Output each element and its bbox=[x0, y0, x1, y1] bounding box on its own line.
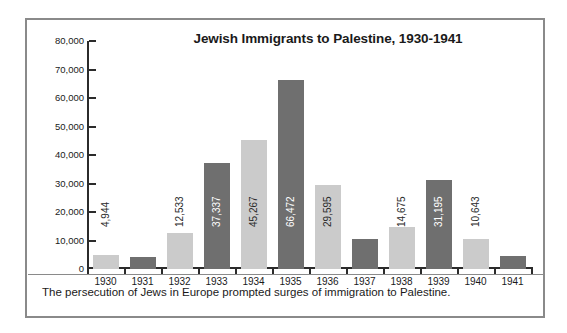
bar-value-label-1939: 31,195 bbox=[434, 196, 444, 227]
bar-value-label-1930: 4,944 bbox=[101, 202, 111, 227]
chart-area: Jewish Immigrants to Palestine, 1930-194… bbox=[28, 21, 544, 276]
bar-value-label-1941: 4,592 bbox=[508, 202, 518, 227]
bar-1935[interactable] bbox=[278, 80, 304, 269]
y-axis-tick bbox=[89, 183, 96, 185]
bar-value-label-1936: 29,595 bbox=[323, 196, 333, 227]
bar-value-label-1934: 45,267 bbox=[249, 196, 259, 227]
bar-value-label-1938: 14,675 bbox=[397, 196, 407, 227]
y-axis-tick-label: 50,000 bbox=[36, 122, 84, 132]
bar-1931[interactable] bbox=[130, 257, 156, 269]
plot-area: 4,9444,07512,53337,33745,26766,47229,595… bbox=[87, 41, 531, 269]
y-axis-tick-label: 10,000 bbox=[36, 236, 84, 246]
bar-value-label-1937: 10,629 bbox=[360, 196, 370, 227]
y-axis-tick bbox=[89, 69, 96, 71]
y-axis-tick-label: 80,000 bbox=[36, 36, 84, 46]
figure-caption: The persecution of Jews in Europe prompt… bbox=[42, 286, 450, 298]
y-axis-tick-label: 70,000 bbox=[36, 65, 84, 75]
y-axis-tick bbox=[89, 154, 96, 156]
bar-1932[interactable] bbox=[167, 233, 193, 269]
y-axis-tick-label: 30,000 bbox=[36, 179, 84, 189]
figure-frame: Jewish Immigrants to Palestine, 1930-194… bbox=[25, 18, 545, 318]
y-axis-tick bbox=[89, 40, 96, 42]
bar-1940[interactable] bbox=[463, 239, 489, 269]
bar-1941[interactable] bbox=[500, 256, 526, 269]
y-axis-tick-label: 40,000 bbox=[36, 150, 84, 160]
y-axis-tick bbox=[89, 211, 96, 213]
bar-1930[interactable] bbox=[93, 255, 119, 269]
y-axis-tick bbox=[89, 240, 96, 242]
bar-value-label-1935: 66,472 bbox=[286, 196, 296, 227]
bar-value-label-1932: 12,533 bbox=[175, 196, 185, 227]
y-axis-tick-label: 20,000 bbox=[36, 207, 84, 217]
y-axis-tick-label: 0 bbox=[36, 264, 84, 274]
bar-1938[interactable] bbox=[389, 227, 415, 269]
y-axis-tick bbox=[89, 97, 96, 99]
y-axis-tick bbox=[89, 126, 96, 128]
y-axis-labels: 010,00020,00030,00040,00050,00060,00070,… bbox=[32, 21, 84, 276]
bar-value-label-1931: 4,075 bbox=[138, 202, 148, 227]
caption-band: The persecution of Jews in Europe prompt… bbox=[28, 274, 544, 315]
bar-value-label-1940: 10,643 bbox=[471, 196, 481, 227]
bar-1937[interactable] bbox=[352, 239, 378, 269]
figure-inner-border: Jewish Immigrants to Palestine, 1930-194… bbox=[27, 20, 543, 316]
y-axis-tick-label: 60,000 bbox=[36, 93, 84, 103]
bar-value-label-1933: 37,337 bbox=[212, 196, 222, 227]
